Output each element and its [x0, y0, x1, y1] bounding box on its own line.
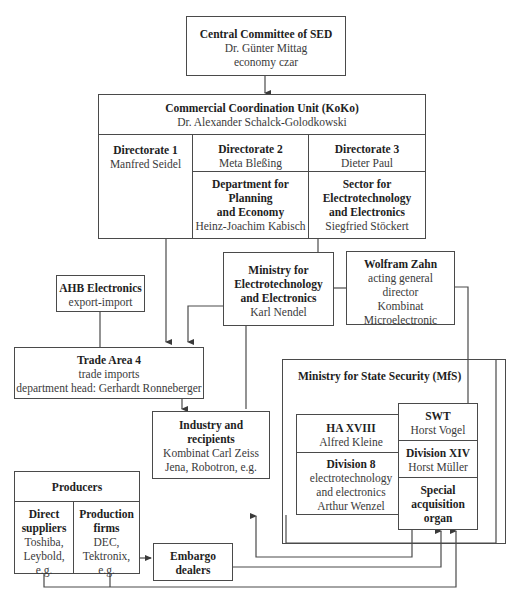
sector-title-2: Electrotechnology [309, 191, 425, 205]
zahn-line-3: Kombinat [347, 299, 454, 313]
swt-person: Horst Vogel [399, 423, 477, 437]
trade-area-line-2: department head: Gerhardt Ronneberger [15, 381, 203, 395]
planning-department-cell: Department for Planning and Economy Hein… [193, 172, 309, 238]
ministry-title-2: Electrotechnology [224, 277, 333, 291]
ha18-person: Alfred Kleine [297, 435, 405, 449]
producers-header: Producers [15, 472, 139, 502]
zahn-line-4: Microelectronic [347, 313, 454, 327]
div14-person: Horst Müller [399, 460, 477, 474]
wolfram-zahn-box: Wolfram Zahn acting general director Kom… [346, 251, 455, 325]
industry-line-1: Kombinat Carl Zeiss [153, 446, 269, 460]
direct-suppliers-cell: Direct suppliers Toshiba, Leybold, e.g. [15, 502, 74, 573]
ministry-electro-box: Ministry for Electrotechnology and Elect… [223, 252, 334, 326]
embargo-dealers-box: Embargo dealers [153, 543, 233, 581]
planning-title-2: Planning [193, 191, 308, 205]
sector-title-1: Sector for [309, 177, 425, 191]
directorate-3-cell: Directorate 3 Dieter Paul [309, 135, 425, 172]
div8-title: Division 8 [297, 457, 405, 471]
embargo-line-1: Embargo [154, 549, 232, 563]
mfs-title: Ministry for State Security (MfS) [298, 369, 461, 383]
special-line-1: Special [399, 483, 477, 497]
ahb-subtitle: export-import [57, 295, 144, 309]
industry-line-2: Jena, Robotron, e.g. [153, 460, 269, 474]
special-line-2: acquisition [399, 497, 477, 511]
planning-title-1: Department for [193, 177, 308, 191]
ministry-title-1: Ministry for [224, 263, 333, 277]
div8-person: Arthur Wenzel [297, 499, 405, 513]
industry-title-2: recipients [153, 432, 269, 446]
koko-box: Commercial Coordination Unit (KoKo) Dr. … [98, 94, 426, 239]
embargo-line-2: dealers [154, 563, 232, 577]
direct-line-2: Leybold, [15, 549, 73, 563]
direct-title-2: suppliers [15, 521, 73, 535]
special-line-3: organ [399, 511, 477, 525]
koko-title: Commercial Coordination Unit (KoKo) [99, 101, 425, 115]
producers-box: Producers Direct suppliers Toshiba, Leyb… [14, 471, 140, 574]
ahb-title: AHB Electronics [57, 281, 144, 295]
zahn-line-2: director [347, 285, 454, 299]
swt-title: SWT [399, 409, 477, 423]
swt-box: SWT Horst Vogel Division XIV Horst Mülle… [398, 403, 478, 530]
division-xiv-cell: Division XIV Horst Müller [399, 441, 477, 478]
div8-line-2: and electronics [297, 485, 405, 499]
ministry-title-3: and Electronics [224, 291, 333, 305]
directorate-3-title: Directorate 3 [309, 142, 425, 156]
production-line-3: e.g. [74, 563, 139, 577]
swt-cell: SWT Horst Vogel [399, 404, 477, 441]
production-firms-cell: Production firms DEC, Tektronix, e.g. [74, 502, 139, 573]
industry-title-1: Industry and [153, 418, 269, 432]
ha-xviii-cell: HA XVIII Alfred Kleine [297, 415, 405, 453]
central-committee-box: Central Committee of SED Dr. Günter Mitt… [186, 16, 346, 76]
planning-title-3: and Economy [193, 205, 308, 219]
directorate-3-person: Dieter Paul [309, 156, 425, 170]
directorate-2-cell: Directorate 2 Meta Bleßing [193, 135, 309, 172]
ha18-title: HA XVIII [297, 421, 405, 435]
division-8-cell: Division 8 electrotechnology and electro… [297, 453, 405, 514]
industry-recipients-box: Industry and recipients Kombinat Carl Ze… [152, 411, 270, 479]
directorate-1-cell: Directorate 1 Manfred Seidel [99, 135, 193, 238]
production-line-2: Tektronix, [74, 549, 139, 563]
ahb-electronics-box: AHB Electronics export-import [56, 275, 145, 312]
planning-person: Heinz-Joachim Kabisch [193, 219, 308, 233]
direct-line-1: Toshiba, [15, 535, 73, 549]
central-committee-person: Dr. Günter Mittag [187, 41, 345, 55]
trade-area-line-1: trade imports [15, 367, 203, 381]
central-committee-role: economy czar [187, 55, 345, 69]
electro-sector-cell: Sector for Electrotechnology and Electro… [309, 172, 425, 238]
div8-line-1: electrotechnology [297, 471, 405, 485]
direct-title-1: Direct [15, 507, 73, 521]
trade-area-4-box: Trade Area 4 trade imports department he… [14, 347, 204, 399]
production-title-2: firms [74, 521, 139, 535]
directorate-2-person: Meta Bleßing [193, 156, 308, 170]
directorate-2-title: Directorate 2 [193, 142, 308, 156]
production-title-1: Production [74, 507, 139, 521]
direct-line-3: e.g. [15, 563, 73, 577]
production-line-1: DEC, [74, 535, 139, 549]
producers-title: Producers [15, 480, 139, 494]
zahn-title: Wolfram Zahn [347, 257, 454, 271]
sector-person: Siegfried Stöckert [309, 219, 425, 233]
directorate-1-title: Directorate 1 [99, 143, 192, 157]
koko-person: Dr. Alexander Schalck-Golodkowski [99, 115, 425, 129]
sector-title-3: and Electronics [309, 205, 425, 219]
directorate-1-person: Manfred Seidel [99, 157, 192, 171]
koko-header: Commercial Coordination Unit (KoKo) Dr. … [99, 95, 425, 135]
zahn-line-1: acting general [347, 271, 454, 285]
special-acquisition-cell: Special acquisition organ [399, 478, 477, 529]
trade-area-title: Trade Area 4 [15, 353, 203, 367]
div14-title: Division XIV [399, 446, 477, 460]
central-committee-title: Central Committee of SED [187, 27, 345, 41]
ministry-person: Karl Nendel [224, 305, 333, 319]
ha-xviii-box: HA XVIII Alfred Kleine Division 8 electr… [296, 414, 406, 515]
